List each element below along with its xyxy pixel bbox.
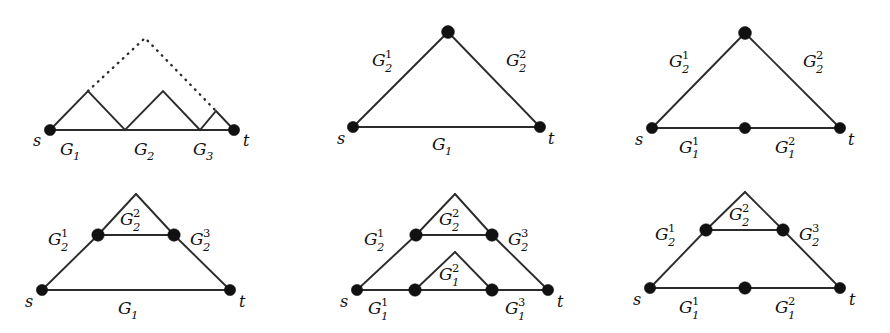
panel-2-G22-sub: 2	[518, 61, 526, 75]
panel-4-G22-base: G	[120, 209, 134, 229]
panel-4-node-upper-left	[92, 229, 104, 241]
panel-4-G1-sub: 1	[131, 308, 138, 322]
panel-2-G1-sub: 1	[445, 144, 452, 158]
panel-5-inner-apex-right-edge	[455, 252, 492, 290]
panel-1-G3-base: G	[193, 139, 207, 159]
panel-5-node-t	[542, 284, 553, 295]
panel-3-G21-base: G	[669, 51, 683, 71]
panel-6-node-t	[834, 282, 845, 293]
panel-4-node-t	[224, 284, 235, 295]
panel-5-G12-sub: 1	[452, 275, 459, 289]
panel-4-edge-label-G1: G 1	[118, 298, 138, 322]
panel-2-G22-base: G	[506, 50, 520, 70]
panel-6-G23-base: G	[799, 224, 813, 244]
panel-6-edge-label-G1-2: G 1 2	[775, 294, 795, 322]
panel-5-G23-sub: 2	[520, 240, 528, 254]
panel-4: s t G 2 1 G 2 2 G 2 3 G 1	[25, 194, 246, 322]
panel-5-edge-label-G1-3: G 1 3	[505, 295, 525, 323]
panel-5-G11-sup: 1	[381, 295, 388, 309]
panel-1-label-s: s	[33, 131, 41, 150]
panel-4-node-s	[36, 284, 47, 295]
panel-1-G2-base: G	[134, 139, 148, 159]
panel-1-G2-sub: 2	[146, 149, 154, 163]
panel-1-edge-label-G1: G 1	[60, 139, 80, 163]
panel-6-G11-base: G	[679, 297, 693, 317]
panel-6-G21-sup: 1	[668, 221, 675, 235]
panel-6-apex-right-edge	[745, 192, 783, 230]
panel-5-G22-sup: 2	[452, 206, 459, 220]
panel-3-edge-label-G2-2: G 2 2	[803, 48, 823, 76]
panel-2-G21-base: G	[372, 50, 386, 70]
panel-2-edge-label-G2-2: G 2 2	[506, 47, 526, 75]
panel-3-G22-sup: 2	[816, 48, 823, 62]
panel-3-G12-sub: 1	[788, 147, 795, 161]
panel-4-G1-base: G	[118, 298, 132, 318]
panel-1-G1-sub: 1	[73, 149, 80, 163]
panel-6: s t G 2 1 G 2 2 G 2 3 G 1	[633, 192, 856, 322]
panel-3-label-t: t	[848, 130, 855, 149]
panel-3-left-edge	[652, 33, 745, 128]
panel-2-G21-sup: 1	[385, 47, 392, 61]
panel-5-edge-label-G1-1: G 1 1	[368, 295, 388, 323]
panel-3-G11-sup: 1	[692, 134, 699, 148]
panel-6-edge-label-G2-2: G 2 2	[729, 201, 749, 229]
panel-6-edge-label-G1-1: G 1 1	[679, 294, 699, 322]
panel-2-label-t: t	[548, 129, 555, 148]
panel-1-node-s	[44, 124, 55, 135]
panel-6-G21-base: G	[655, 224, 669, 244]
panel-3-G11-sub: 1	[692, 147, 699, 161]
panel-4-G21-sup: 1	[61, 226, 68, 240]
panel-2-left-edge	[353, 32, 448, 127]
panel-5-label-t: t	[557, 292, 564, 311]
panel-4-G21-sub: 2	[60, 240, 68, 254]
panel-5-node-upper-right	[486, 229, 498, 241]
panel-5-node-upper-left	[410, 229, 422, 241]
panel-1-G3-sub: 3	[206, 149, 213, 163]
panel-2-G1-base: G	[432, 134, 446, 154]
panel-5-edge-label-G2-1: G 2 1	[364, 226, 384, 254]
panel-3: s t G 2 1 G 2 2 G 1 1 G 1	[635, 27, 855, 161]
panel-6-G12-sup: 2	[788, 294, 795, 308]
panel-5-G23-base: G	[508, 229, 522, 249]
panel-2-label-s: s	[337, 129, 345, 148]
panel-4-node-upper-right	[168, 229, 180, 241]
panel-6-G21-sub: 2	[667, 235, 675, 249]
panel-5-label-s: s	[340, 292, 348, 311]
panel-5-edge-label-G2-2: G 2 2	[439, 206, 459, 234]
panel-3-node-s	[646, 122, 657, 133]
panel-2-G22-sup: 2	[519, 47, 526, 61]
panel-5-node-bottom-left	[409, 284, 421, 296]
panel-1-edge-label-G2: G 2	[134, 139, 154, 163]
panel-3-edge-label-G1-1: G 1 1	[679, 134, 699, 161]
panel-6-label-t: t	[849, 290, 856, 309]
panel-5-G11-sub: 1	[381, 309, 388, 323]
panel-6-G22-sup: 2	[742, 201, 749, 215]
panel-1-label-t: t	[243, 131, 250, 150]
panel-4-G23-base: G	[190, 229, 204, 249]
panel-6-edge-label-G2-1: G 2 1	[655, 221, 675, 249]
panel-4-edge-label-G2-2: G 2 2	[120, 206, 140, 234]
panel-4-edge-label-G2-3: G 2 3	[190, 226, 210, 254]
panel-4-G21-base: G	[48, 229, 62, 249]
panel-5-G21-sub: 2	[376, 240, 384, 254]
panel-6-G22-base: G	[729, 204, 743, 224]
panel-3-G22-sub: 2	[815, 62, 823, 76]
panel-3-G12-sup: 2	[788, 134, 795, 148]
panel-5-G21-base: G	[364, 229, 378, 249]
panel-6-G11-sub: 1	[692, 308, 699, 322]
panel-5-G22-sub: 2	[451, 220, 459, 234]
panel-4-edge-label-G2-1: G 2 1	[48, 226, 68, 254]
panel-2-edge-label-G2-1: G 2 1	[372, 47, 392, 75]
panel-5-edge-label-G1-2: G 1 2	[439, 261, 459, 289]
figure-root: s t G 1 G 2 G 3	[0, 0, 890, 333]
panel-4-label-t: t	[239, 292, 246, 311]
panel-2-node-s	[347, 121, 358, 132]
figure-canvas: s t G 1 G 2 G 3	[0, 0, 890, 333]
panel-3-node-t	[834, 122, 845, 133]
panel-3-node-mid-bottom	[739, 122, 750, 133]
panel-5-edge-label-G2-3: G 2 3	[508, 226, 528, 254]
panel-5-G11-base: G	[368, 298, 382, 318]
panel-5-G23-sup: 3	[521, 226, 528, 240]
panel-3-edge-label-G1-2: G 1 2	[775, 134, 795, 161]
panel-3-G21-sub: 2	[681, 62, 689, 76]
